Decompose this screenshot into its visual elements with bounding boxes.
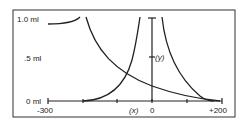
x-tick-label-zero: 0 xyxy=(150,106,155,115)
curve-c xyxy=(83,17,140,101)
curve-a xyxy=(48,17,80,24)
x-axis xyxy=(48,98,222,104)
y-tick-label-top: 1.0 ml xyxy=(17,15,39,24)
x-tick-label-left: -300 xyxy=(37,106,54,115)
x-tick-label-right: +200 xyxy=(209,106,228,115)
y-tick-label-zero: 0 ml xyxy=(26,97,41,106)
y-tick-label-mid: .5 ml xyxy=(24,54,42,63)
curve-b xyxy=(86,17,220,101)
curves xyxy=(48,17,220,101)
chart: 1.0 ml .5 ml 0 ml -300 0 +200 (x) (y) xyxy=(0,0,246,124)
curve-d xyxy=(162,17,214,101)
y-axis-label: (y) xyxy=(155,53,165,62)
x-axis-label: (x) xyxy=(129,106,139,115)
